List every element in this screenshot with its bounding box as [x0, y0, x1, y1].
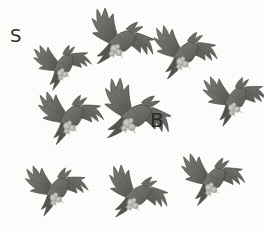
bird-figure — [173, 140, 254, 218]
bird-figure — [16, 149, 98, 229]
figure-canvas: SB — [0, 0, 264, 232]
bird-figure — [100, 159, 175, 230]
annotation-label-s: S — [10, 27, 21, 45]
annotation-label-b: B — [150, 110, 164, 130]
bird-figure — [88, 70, 182, 161]
